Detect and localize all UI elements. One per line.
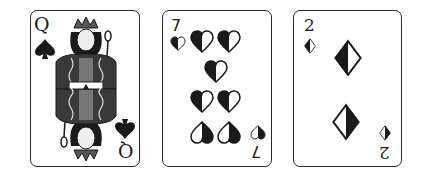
heart-pip: [191, 31, 213, 53]
card-two-of-diamonds[interactable]: 2 2: [293, 10, 402, 167]
rank-label-top: 7: [171, 17, 181, 34]
card-seven-of-hearts[interactable]: 7 7: [162, 10, 272, 167]
diamond-pip: [334, 39, 362, 77]
heart-pip: [205, 61, 227, 83]
diamond-pip: [332, 103, 360, 141]
rank-label-bottom: 7: [251, 143, 261, 160]
rank-label-top: Q: [34, 16, 50, 33]
spade-icon: [115, 119, 135, 139]
heart-pip: [218, 91, 240, 113]
rank-label-bottom: 2: [379, 144, 390, 161]
rank-label-bottom: Q: [118, 142, 134, 159]
rank-label-top: 2: [304, 17, 315, 34]
heart-pip: [191, 91, 213, 113]
heart-icon: [251, 125, 265, 139]
heart-pip: [191, 121, 213, 143]
diamond-icon: [304, 38, 316, 54]
heart-pip: [218, 121, 240, 143]
diamond-icon: [379, 125, 391, 141]
card-queen-of-spades[interactable]: Q Q: [30, 10, 140, 167]
queen-face-art: [51, 14, 121, 164]
heart-icon: [171, 37, 185, 51]
heart-pip: [218, 31, 240, 53]
